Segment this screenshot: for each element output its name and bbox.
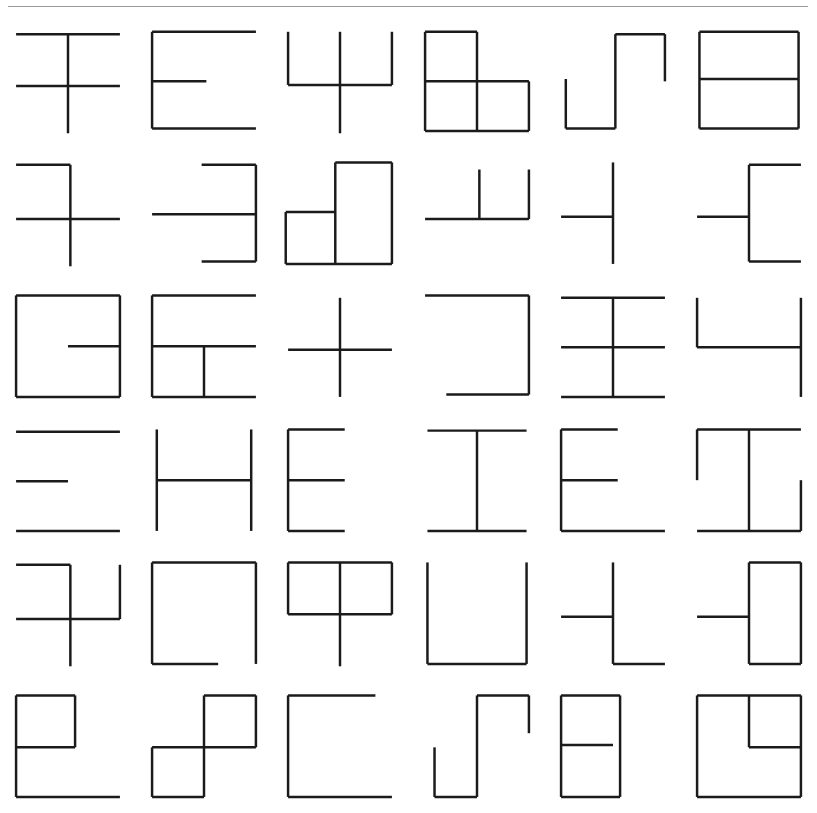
glyph-cell-6-6 [681, 679, 817, 812]
glyph-cell-3-4 [409, 279, 545, 412]
glyph-cell-2-5 [545, 145, 681, 278]
glyph-r2c3-drawing [281, 153, 399, 271]
glyph-cell-3-1 [0, 279, 136, 412]
glyph-r1c6-drawing [690, 20, 808, 138]
glyph-cell-5-5 [545, 545, 681, 678]
glyph-r4c5-drawing [554, 420, 672, 538]
glyph-r3c4-drawing [418, 286, 536, 404]
glyph-cell-1-3 [272, 12, 408, 145]
glyph-r3c5-drawing [554, 286, 672, 404]
glyph-r6c3-drawing [281, 686, 399, 804]
glyph-r5c3-drawing [281, 553, 399, 671]
glyph-cell-3-2 [136, 279, 272, 412]
glyph-cell-5-3 [272, 545, 408, 678]
glyph-cell-4-3 [272, 412, 408, 545]
glyph-cell-6-2 [136, 679, 272, 812]
glyph-r5c2-drawing [145, 553, 263, 671]
glyph-r2c6-drawing [690, 153, 808, 271]
glyph-r1c1-drawing [9, 20, 127, 138]
glyph-r4c3-drawing [281, 420, 399, 538]
glyph-r1c2-drawing [145, 20, 263, 138]
glyph-cell-6-3 [272, 679, 408, 812]
glyph-cell-5-2 [136, 545, 272, 678]
glyph-r5c6-drawing [690, 553, 808, 671]
glyph-cell-2-6 [681, 145, 817, 278]
glyph-r6c5-drawing [554, 686, 672, 804]
horizontal-rule [8, 6, 808, 7]
glyph-cell-2-1 [0, 145, 136, 278]
glyph-cell-1-4 [409, 12, 545, 145]
glyph-cell-2-2 [136, 145, 272, 278]
glyph-cell-6-5 [545, 679, 681, 812]
glyph-cell-1-2 [136, 12, 272, 145]
glyph-cell-1-6 [681, 12, 817, 145]
glyph-r2c4-drawing [418, 153, 536, 271]
glyph-cell-3-3 [272, 279, 408, 412]
glyph-cell-5-6 [681, 545, 817, 678]
glyph-cell-6-4 [409, 679, 545, 812]
glyph-cell-4-4 [409, 412, 545, 545]
glyph-cell-3-5 [545, 279, 681, 412]
glyph-r4c6-drawing [690, 420, 808, 538]
glyph-cell-5-1 [0, 545, 136, 678]
glyph-cell-5-4 [409, 545, 545, 678]
glyph-r3c3-drawing [281, 286, 399, 404]
glyph-r3c1-drawing [9, 286, 127, 404]
glyph-cell-2-3 [272, 145, 408, 278]
glyph-r4c1-drawing [9, 420, 127, 538]
glyph-cell-1-5 [545, 12, 681, 145]
glyph-r6c1-drawing [9, 686, 127, 804]
glyph-cell-6-1 [0, 679, 136, 812]
glyph-r1c3-drawing [281, 20, 399, 138]
glyph-cell-4-5 [545, 412, 681, 545]
glyph-r2c5-drawing [554, 153, 672, 271]
glyph-cell-3-6 [681, 279, 817, 412]
glyph-cell-4-6 [681, 412, 817, 545]
glyph-cell-4-1 [0, 412, 136, 545]
glyph-r5c1-drawing [9, 553, 127, 671]
glyph-r6c6-drawing [690, 686, 808, 804]
glyph-r4c2-drawing [145, 420, 263, 538]
glyph-cell-4-2 [136, 412, 272, 545]
glyph-r1c4-drawing [418, 20, 536, 138]
glyph-r2c2-drawing [145, 153, 263, 271]
glyph-r5c5-drawing [554, 553, 672, 671]
glyph-cell-2-4 [409, 145, 545, 278]
glyph-grid [0, 12, 817, 812]
glyph-sheet-page [0, 0, 817, 813]
glyph-cell-1-1 [0, 12, 136, 145]
glyph-r6c2-drawing [145, 686, 263, 804]
glyph-r2c1-drawing [9, 153, 127, 271]
glyph-r3c6-drawing [690, 286, 808, 404]
glyph-r6c4-drawing [418, 686, 536, 804]
glyph-r1c5-drawing [554, 20, 672, 138]
glyph-r5c4-drawing [418, 553, 536, 671]
glyph-r4c4-drawing [418, 420, 536, 538]
glyph-r3c2-drawing [145, 286, 263, 404]
